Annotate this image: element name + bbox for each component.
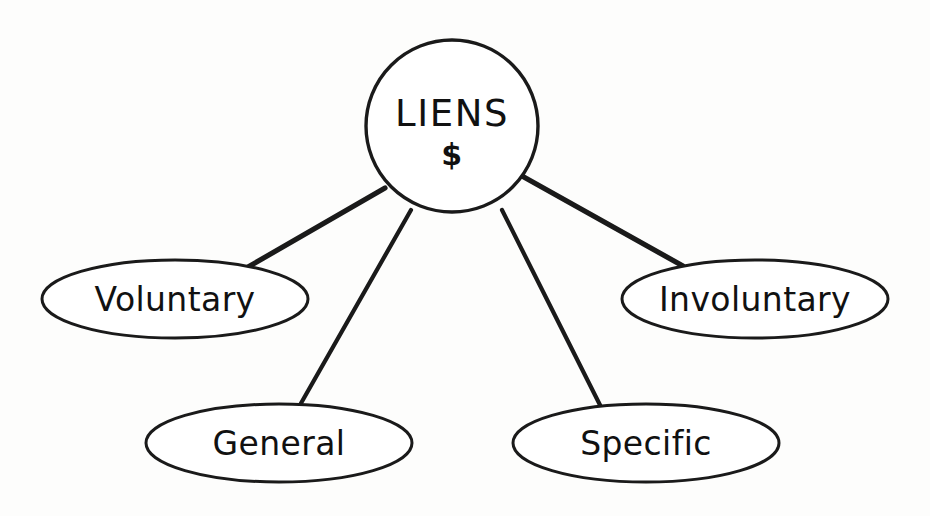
node-involuntary[interactable]: Involuntary	[622, 260, 888, 338]
general-label: General	[213, 424, 346, 463]
node-liens[interactable]: LIENS $	[366, 40, 538, 212]
connector-liens-to-specific	[502, 210, 600, 405]
node-general[interactable]: General	[146, 404, 412, 482]
specific-label: Specific	[580, 424, 712, 463]
node-specific[interactable]: Specific	[513, 404, 779, 482]
connector-liens-to-voluntary	[248, 188, 385, 267]
node-voluntary[interactable]: Voluntary	[42, 260, 308, 338]
voluntary-label: Voluntary	[94, 280, 255, 319]
diagram-canvas: LIENS $ Voluntary General Specific Invol…	[0, 0, 930, 516]
liens-label-currency: $	[441, 137, 462, 172]
connector-liens-to-general	[300, 210, 411, 405]
connector-liens-to-involuntary	[522, 176, 683, 266]
involuntary-label: Involuntary	[659, 280, 851, 319]
liens-label-main: LIENS	[395, 92, 509, 135]
liens-diagram: LIENS $ Voluntary General Specific Invol…	[0, 0, 930, 516]
